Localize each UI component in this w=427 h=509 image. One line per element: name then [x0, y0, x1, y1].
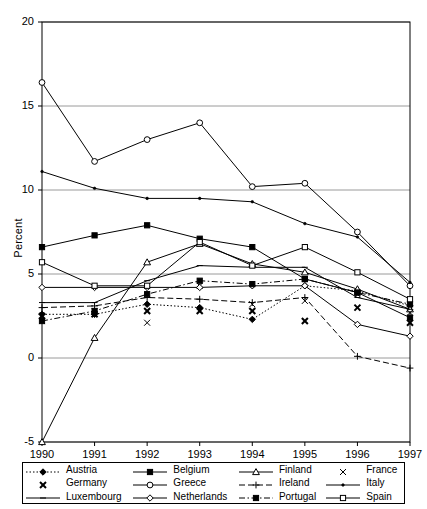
france-key	[323, 464, 363, 476]
finland-key-glyph	[236, 466, 276, 478]
y-tick-label: -5	[6, 435, 34, 447]
chart-legend: AustriaBelgiumFinlandFranceGermanyGreece…	[22, 462, 405, 504]
greece-key	[130, 477, 170, 489]
x-tick-label: 1996	[335, 448, 379, 460]
legend-item-netherlands[interactable]: Netherlands	[130, 490, 236, 503]
legend-item-austria[interactable]: Austria	[23, 463, 130, 476]
germany-key-glyph	[23, 479, 63, 491]
legend-label: Spain	[366, 491, 392, 502]
legend-item-portugal[interactable]: Portugal	[236, 490, 323, 503]
series-ireland	[39, 294, 414, 371]
y-tick-label: 15	[6, 99, 34, 111]
legend-label: Germany	[66, 477, 107, 488]
italy-key-glyph	[323, 479, 363, 491]
y-tick-label: 0	[6, 351, 34, 363]
legend-label: Luxembourg	[66, 491, 122, 502]
legend-item-italy[interactable]: Italy	[323, 476, 404, 489]
x-tick-label: 1992	[125, 448, 169, 460]
x-tick-label: 1991	[73, 448, 117, 460]
italy-key	[323, 477, 363, 489]
x-tick-label: 1993	[178, 448, 222, 460]
line-chart-plot	[0, 0, 427, 509]
luxembourg-key	[23, 490, 63, 502]
x-tick-label: 1997	[388, 448, 427, 460]
y-tick-label: 10	[6, 183, 34, 195]
legend-table: AustriaBelgiumFinlandFranceGermanyGreece…	[23, 463, 404, 503]
y-tick-label: 20	[6, 15, 34, 27]
ireland-key	[236, 477, 276, 489]
legend-label: Netherlands	[173, 491, 227, 502]
legend-item-greece[interactable]: Greece	[130, 476, 236, 489]
luxembourg-key-glyph	[23, 492, 63, 504]
y-tick-label: 5	[6, 267, 34, 279]
legend-label: Greece	[173, 477, 206, 488]
netherlands-key-glyph	[130, 492, 170, 504]
legend-item-luxembourg[interactable]: Luxembourg	[23, 490, 130, 503]
france-key-glyph	[323, 466, 363, 478]
legend-item-spain[interactable]: Spain	[323, 490, 404, 503]
legend-item-belgium[interactable]: Belgium	[130, 463, 236, 476]
legend-item-ireland[interactable]: Ireland	[236, 476, 323, 489]
austria-key	[23, 464, 63, 476]
finland-key	[236, 464, 276, 476]
belgium-key	[130, 464, 170, 476]
x-tick-label: 1994	[230, 448, 274, 460]
x-tick-label: 1990	[20, 448, 64, 460]
legend-row: AustriaBelgiumFinlandFrance	[23, 463, 404, 476]
austria-key-glyph	[23, 466, 63, 478]
legend-label: Austria	[66, 464, 97, 475]
spain-key	[323, 490, 363, 502]
legend-label: Belgium	[173, 464, 209, 475]
legend-item-france[interactable]: France	[323, 463, 404, 476]
germany-key	[23, 477, 63, 489]
portugal-key	[236, 490, 276, 502]
legend-row: GermanyGreeceIrelandItaly	[23, 476, 404, 489]
chart-page: Percent 20151050-5 199019911992199319941…	[0, 0, 427, 509]
greece-key-glyph	[130, 479, 170, 491]
portugal-key-glyph	[236, 492, 276, 504]
legend-item-finland[interactable]: Finland	[236, 463, 323, 476]
legend-label: Ireland	[279, 477, 310, 488]
legend-row: LuxembourgNetherlandsPortugalSpain	[23, 490, 404, 503]
belgium-key-glyph	[130, 466, 170, 478]
legend-item-germany[interactable]: Germany	[23, 476, 130, 489]
y-axis-title: Percent	[12, 198, 24, 278]
series-greece	[39, 80, 413, 289]
legend-label: Italy	[366, 477, 384, 488]
x-tick-label: 1995	[283, 448, 327, 460]
netherlands-key	[130, 490, 170, 502]
spain-key-glyph	[323, 492, 363, 504]
ireland-key-glyph	[236, 479, 276, 491]
legend-label: Portugal	[279, 491, 316, 502]
legend-label: Finland	[279, 464, 312, 475]
legend-label: France	[366, 464, 397, 475]
